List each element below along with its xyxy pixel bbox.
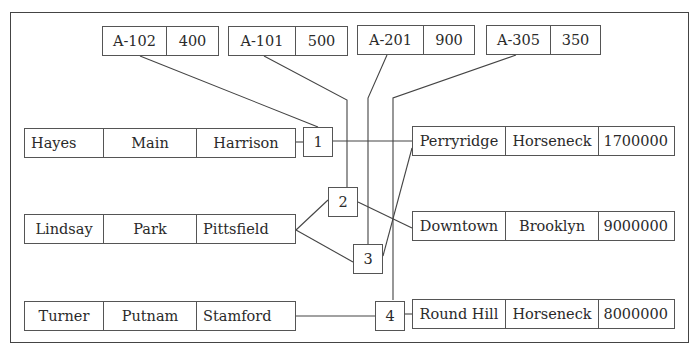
customer-name: Lindsay [25,215,104,243]
account-number: A-102 [103,27,167,55]
account-number: A-101 [229,27,296,55]
branch-record: Round Hill Horseneck 8000000 [412,299,675,329]
branch-name: Downtown [413,212,506,240]
pointer-box: 4 [375,301,405,331]
link-lindsay-3 [296,230,353,262]
customer-street: Putnam [104,302,197,330]
customer-name: Turner [25,302,104,330]
account-number: A-201 [358,26,424,54]
branch-name: Perryridge [413,127,506,155]
link-a102-1 [140,56,318,127]
link-a201-3 [368,55,387,244]
customer-record: Turner Putnam Stamford [24,301,296,331]
account-balance: 350 [551,26,600,54]
branch-city: Horseneck [506,127,599,155]
account-balance: 900 [424,26,474,54]
branch-assets: 9000000 [599,212,674,240]
link-a305-4 [393,55,516,300]
customer-name: Hayes [25,129,104,157]
branch-city: Brooklyn [506,212,599,240]
account-record: A-101 500 [228,26,348,56]
pointer-box: 3 [353,244,383,274]
branch-assets: 8000000 [599,300,674,328]
pointer-box: 2 [328,187,358,217]
account-number: A-305 [487,26,551,54]
branch-name: Round Hill [413,300,506,328]
account-record: A-102 400 [102,26,219,56]
link-2-downtown [358,202,412,228]
customer-city: Stamford [197,302,295,330]
pointer-box: 1 [303,127,333,157]
branch-assets: 1700000 [599,127,674,155]
branch-record: Perryridge Horseneck 1700000 [412,126,675,156]
customer-city: Harrison [197,129,295,157]
customer-street: Main [104,129,197,157]
account-record: A-201 900 [357,25,475,55]
customer-record: Lindsay Park Pittsfield [24,214,296,244]
account-record: A-305 350 [486,25,601,55]
branch-record: Downtown Brooklyn 9000000 [412,211,675,241]
customer-record: Hayes Main Harrison [24,128,296,158]
link-lindsay-2 [296,200,328,230]
account-balance: 400 [167,27,218,55]
customer-city: Pittsfield [197,215,295,243]
customer-street: Park [104,215,197,243]
branch-city: Horseneck [506,300,599,328]
link-3-perryridge [383,148,412,256]
account-balance: 500 [296,27,347,55]
